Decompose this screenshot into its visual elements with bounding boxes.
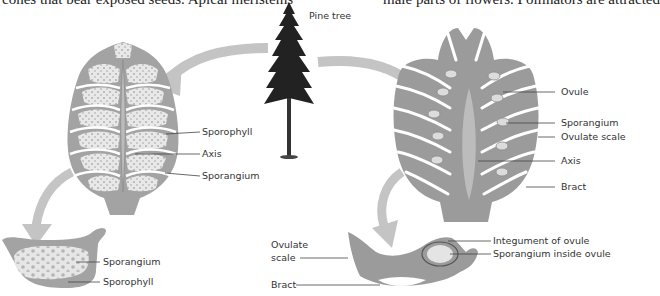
label-female-bract: Bract [561,182,586,192]
label-sporangium-inside-ovule: Sporangium inside ovule [493,249,611,259]
male-cone [67,42,178,215]
label-detail-sporophyll: Sporophyll [103,277,153,287]
female-cone [394,28,539,222]
label-detail-bract: Bract [271,280,296,290]
female-ovulate-scale-detail [348,232,478,286]
label-male-sporophyll: Sporophyll [202,127,252,137]
label-female-axis: Axis [561,156,581,166]
pine-tree-illustration [264,2,314,159]
arrow-female-cone-to-detail [372,172,402,248]
label-pine-tree: Pine tree [309,11,351,21]
arrow-male-cone-to-detail [22,172,72,246]
label-integument-of-ovule: Integument of ovule [493,236,589,246]
label-detail-ovulate: Ovulate [271,240,308,250]
label-male-axis: Axis [202,149,222,159]
label-detail-scale: scale [271,253,295,263]
label-detail-sporangium: Sporangium [103,257,161,267]
label-female-sporangium: Sporangium [561,118,619,128]
label-male-sporangium: Sporangium [202,171,260,181]
label-female-ovulate-scale: Ovulate scale [561,132,626,142]
label-female-ovule: Ovule [561,87,589,97]
male-sporophyll-detail [2,228,106,288]
